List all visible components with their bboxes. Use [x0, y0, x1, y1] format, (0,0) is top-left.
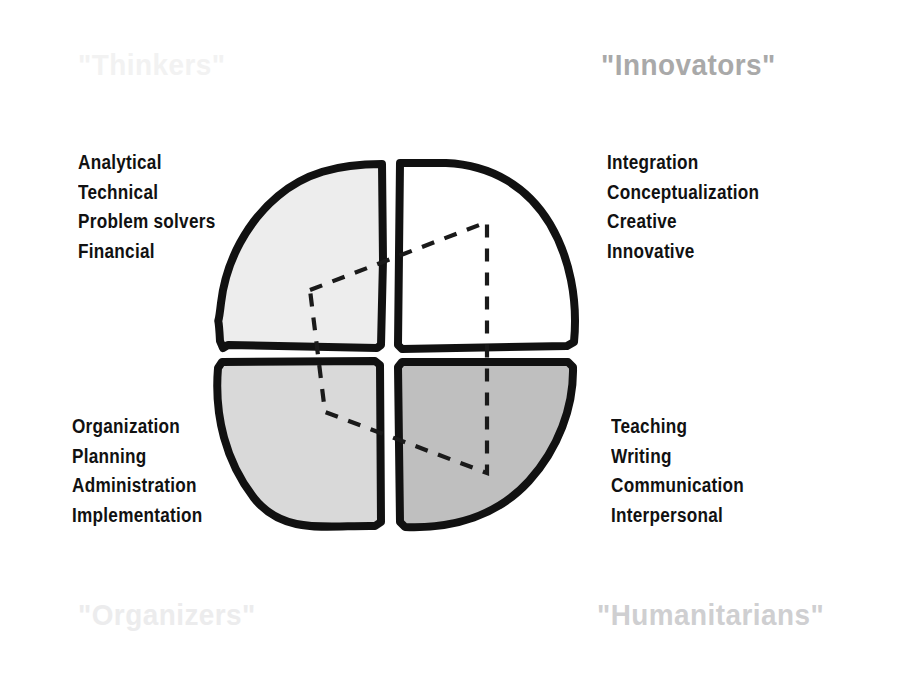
trait-list-innovators: Integration Conceptualization Creative I…: [607, 148, 759, 266]
trait-item: Writing: [611, 442, 744, 472]
trait-item: Organization: [72, 412, 203, 442]
trait-item: Analytical: [78, 148, 215, 178]
trait-item: Teaching: [611, 412, 744, 442]
trait-item: Integration: [607, 148, 759, 178]
diagram-canvas: "Thinkers" "Innovators" "Organizers" "Hu…: [0, 0, 902, 681]
quadrant-shape-thinkers[interactable]: [218, 164, 383, 348]
trait-item: Innovative: [607, 237, 759, 267]
trait-item: Planning: [72, 442, 203, 472]
quadrant-label-organizers: "Organizers": [78, 598, 256, 632]
trait-item: Administration: [72, 471, 203, 501]
trait-list-organizers: Organization Planning Administration Imp…: [72, 412, 203, 530]
quadrant-label-humanitarians: "Humanitarians": [597, 598, 824, 632]
trait-item: Problem solvers: [78, 207, 215, 237]
trait-list-thinkers: Analytical Technical Problem solvers Fin…: [78, 148, 215, 266]
trait-list-humanitarians: Teaching Writing Communication Interpers…: [611, 412, 744, 530]
quadrant-shape-organizers[interactable]: [217, 361, 381, 527]
trait-item: Conceptualization: [607, 178, 759, 208]
trait-item: Creative: [607, 207, 759, 237]
trait-item: Financial: [78, 237, 215, 267]
brain-quadrant-figure: [196, 140, 606, 550]
quadrant-label-thinkers: "Thinkers": [78, 48, 225, 82]
trait-item: Implementation: [72, 501, 203, 531]
trait-item: Communication: [611, 471, 744, 501]
quadrant-label-innovators: "Innovators": [601, 48, 776, 82]
trait-item: Technical: [78, 178, 215, 208]
trait-item: Interpersonal: [611, 501, 744, 531]
